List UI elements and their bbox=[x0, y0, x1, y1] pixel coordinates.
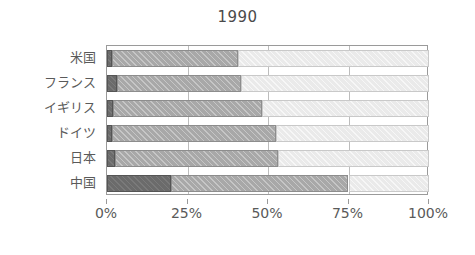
bar-segment bbox=[115, 150, 278, 167]
bar-segment bbox=[349, 175, 430, 192]
x-axis-tick-label: 25% bbox=[171, 205, 202, 221]
bar-row bbox=[107, 125, 427, 142]
chart-title: 1990 bbox=[0, 8, 475, 26]
bar-segment bbox=[241, 75, 429, 92]
bars-layer bbox=[107, 46, 427, 194]
x-axis: 0%25%50%75%100% bbox=[106, 205, 428, 231]
bar-row bbox=[107, 50, 427, 67]
y-axis-tick-label: フランス bbox=[44, 76, 96, 89]
bar-segment bbox=[112, 125, 276, 142]
bar-row bbox=[107, 100, 427, 117]
bar-segment bbox=[107, 175, 171, 192]
x-axis-tick-label: 100% bbox=[408, 205, 448, 221]
x-axis-tick bbox=[267, 199, 268, 204]
bar-row bbox=[107, 175, 427, 192]
x-axis-tick-label: 75% bbox=[332, 205, 363, 221]
x-axis-tick bbox=[348, 199, 349, 204]
bar-segment bbox=[112, 50, 238, 67]
bar-row bbox=[107, 150, 427, 167]
chart-container: 1990 米国フランスイギリスドイツ日本中国 0%25%50%75%100% bbox=[0, 0, 475, 255]
bar-segment bbox=[113, 100, 261, 117]
x-axis-tick-label: 0% bbox=[95, 205, 117, 221]
bar-segment bbox=[117, 75, 241, 92]
y-axis-tick-label: ドイツ bbox=[57, 126, 96, 139]
x-axis-tick bbox=[106, 199, 107, 204]
bar-segment bbox=[278, 150, 429, 167]
x-axis-tick bbox=[428, 199, 429, 204]
bar-segment bbox=[238, 50, 429, 67]
y-axis: 米国フランスイギリスドイツ日本中国 bbox=[0, 45, 100, 195]
bar-segment bbox=[276, 125, 429, 142]
y-axis-tick-label: 米国 bbox=[70, 51, 96, 64]
bar-segment bbox=[262, 100, 429, 117]
x-axis-tick bbox=[187, 199, 188, 204]
bar-segment bbox=[107, 150, 115, 167]
bar-row bbox=[107, 75, 427, 92]
bar-segment bbox=[171, 175, 348, 192]
y-axis-tick-label: 中国 bbox=[70, 176, 96, 189]
bar-segment bbox=[107, 75, 117, 92]
x-axis-tick-label: 50% bbox=[251, 205, 282, 221]
plot-area bbox=[106, 45, 428, 195]
y-axis-tick-label: 日本 bbox=[70, 151, 96, 164]
y-axis-tick-label: イギリス bbox=[44, 101, 96, 114]
